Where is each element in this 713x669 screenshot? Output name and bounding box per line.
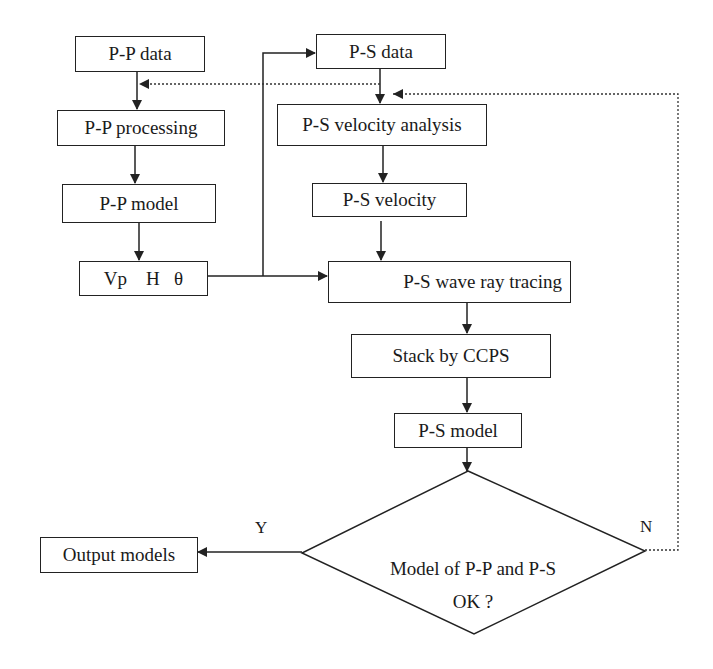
yes-label: Y [255, 518, 267, 538]
decision-text-line1: Model of P-P and P-S [343, 552, 603, 585]
decision-text-line2: OK ? [343, 585, 603, 618]
ps-data-box: P-S data [316, 34, 446, 69]
pp-data-box: P-P data [75, 36, 205, 72]
ps-velocity-analysis-label: P-S velocity analysis [302, 114, 461, 136]
ps-data-label: P-S data [349, 41, 413, 63]
pp-model-label: P-P model [100, 193, 179, 215]
output-models-box: Output models [40, 537, 198, 573]
vp-h-theta-box: Vp H θ [79, 261, 208, 296]
ps-velocity-analysis-box: P-S velocity analysis [277, 104, 487, 146]
pp-model-box: P-P model [62, 184, 216, 223]
pp-processing-label: P-P processing [85, 117, 198, 139]
ps-velocity-box: P-S velocity [312, 183, 467, 217]
no-label: N [640, 517, 652, 537]
pp-data-label: P-P data [108, 43, 171, 65]
ps-model-label: P-S model [418, 420, 498, 442]
ps-ray-tracing-label: P-S wave ray tracing [403, 271, 562, 293]
stack-ccps-box: Stack by CCPS [351, 334, 551, 378]
ps-ray-tracing-box: P-S wave ray tracing [328, 261, 571, 303]
vp-h-theta-label: Vp H θ [104, 268, 183, 290]
stack-ccps-label: Stack by CCPS [392, 345, 509, 367]
output-models-label: Output models [63, 544, 175, 566]
ps-velocity-label: P-S velocity [343, 189, 436, 211]
ps-model-box: P-S model [394, 413, 522, 448]
pp-processing-box: P-P processing [57, 110, 225, 146]
